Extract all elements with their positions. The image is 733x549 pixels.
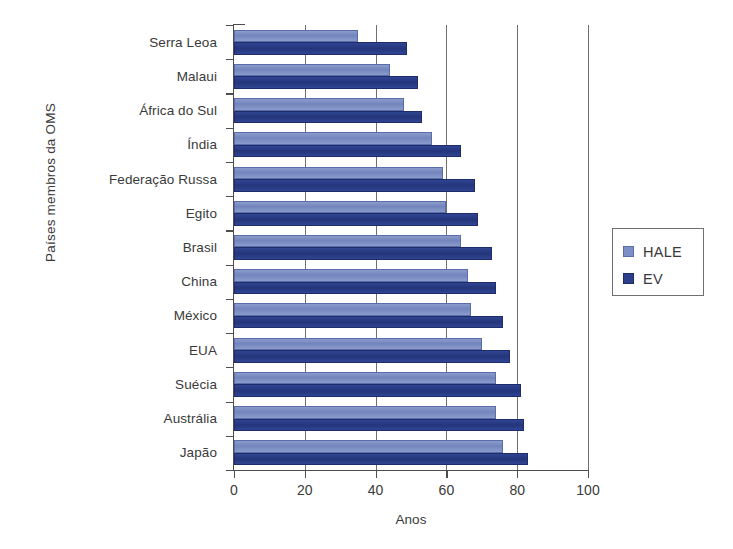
bar-ev[interactable] [234,213,478,225]
x-axis-tick-label: 80 [509,482,525,498]
x-axis-tick [588,470,589,478]
y-axis-tick [226,299,234,300]
category-label: Federação Russa [90,162,224,196]
x-axis-tick [376,470,377,478]
bar-ev[interactable] [234,247,492,259]
y-axis-tick [226,162,234,163]
y-axis-tick [226,128,234,129]
category-label: África do Sul [90,93,224,127]
bar-hale[interactable] [234,338,482,350]
plot-area: 020406080100 Anos [234,25,588,470]
x-axis-tick-label: 60 [439,482,455,498]
bar-group [234,196,588,230]
x-axis-title: Anos [234,512,588,527]
y-axis-tick [226,230,234,231]
bar-group [234,230,588,264]
bar-hale[interactable] [234,167,443,179]
y-axis-tick [226,402,234,403]
bar-group [234,299,588,333]
y-axis-tick [226,196,234,197]
category-label: Austrália [90,402,224,436]
y-axis-tick [226,470,234,471]
bar-group [234,436,588,470]
y-axis-tick [226,367,234,368]
chart-legend: HALEEV [612,228,704,296]
x-axis-tick-label: 20 [297,482,313,498]
bar-group [234,59,588,93]
bar-hale[interactable] [234,440,503,452]
bar-group [234,367,588,401]
x-axis-tick-label: 100 [576,482,599,498]
bar-ev[interactable] [234,179,475,191]
bar-ev[interactable] [234,384,521,396]
category-label: Malaui [90,59,224,93]
legend-swatch-icon [623,246,634,257]
legend-item[interactable]: EV [623,265,703,292]
bar-hale[interactable] [234,132,432,144]
category-label: Japão [90,436,224,470]
bar-hale[interactable] [234,372,496,384]
category-label: Suécia [90,367,224,401]
x-axis-line [233,470,589,471]
gridline [588,25,589,470]
bar-hale[interactable] [234,98,404,110]
bar-ev[interactable] [234,145,461,157]
category-label: EUA [90,333,224,367]
y-axis-tick [226,265,234,266]
y-axis-title: Países membros da OMS [43,73,58,293]
bar-hale[interactable] [234,64,390,76]
bar-ev[interactable] [234,453,528,465]
bar-ev[interactable] [234,42,407,54]
bar-group [234,162,588,196]
x-axis-tick-label: 0 [230,482,238,498]
bar-ev[interactable] [234,111,422,123]
x-axis-tick [517,470,518,478]
legend-label: EV [643,271,663,287]
y-axis-tick [226,333,234,334]
bar-ev[interactable] [234,419,524,431]
bar-group [234,265,588,299]
bar-group [234,333,588,367]
bar-group [234,128,588,162]
bar-rows [234,25,588,470]
y-axis-category-labels: Serra LeoaMalauiÁfrica do SulÍndiaFedera… [90,25,224,470]
y-axis-tick [226,93,234,94]
legend-label: HALE [643,244,682,260]
legend-item[interactable]: HALE [623,238,703,265]
bar-ev[interactable] [234,350,510,362]
bar-ev[interactable] [234,316,503,328]
x-axis-tick [234,470,235,478]
bar-hale[interactable] [234,269,468,281]
bar-group [234,402,588,436]
category-label: China [90,265,224,299]
bar-hale[interactable] [234,30,358,42]
category-label: Índia [90,128,224,162]
x-axis-tick [305,470,306,478]
category-label: Brasil [90,230,224,264]
bar-ev[interactable] [234,282,496,294]
category-label: Serra Leoa [90,25,224,59]
category-label: México [90,299,224,333]
bar-hale[interactable] [234,235,461,247]
y-axis-tick [226,436,234,437]
bar-group [234,93,588,127]
bar-hale[interactable] [234,303,471,315]
y-axis-tick [226,25,234,26]
legend-swatch-icon [623,273,634,284]
bar-hale[interactable] [234,406,496,418]
bar-group [234,25,588,59]
x-axis-tick-label: 40 [368,482,384,498]
chart-container: Países membros da OMS Serra LeoaMalauiÁf… [0,0,733,549]
y-axis-tick [226,59,234,60]
bar-ev[interactable] [234,76,418,88]
category-label: Egito [90,196,224,230]
bar-hale[interactable] [234,201,446,213]
x-axis-tick [446,470,447,478]
